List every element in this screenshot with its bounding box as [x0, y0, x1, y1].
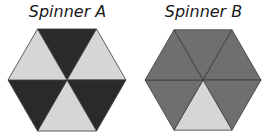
spinners-diagram: [0, 0, 262, 135]
spinner-a: [8, 29, 126, 131]
spinner-b: [145, 30, 261, 130]
